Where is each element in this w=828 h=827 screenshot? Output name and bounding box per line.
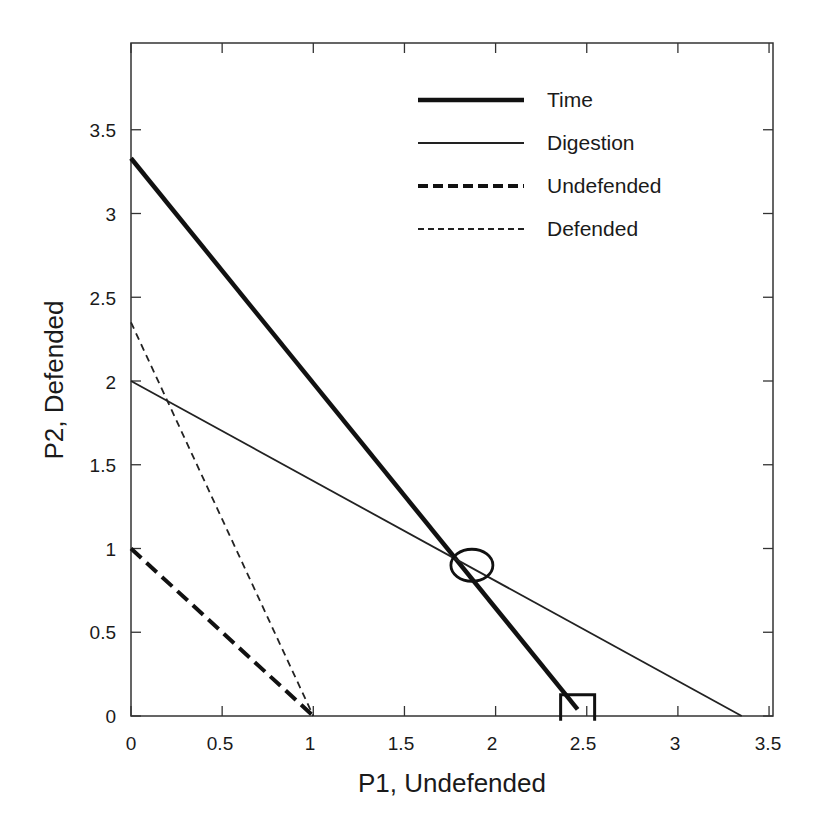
chart-canvas: 0 0.5 1 1.5 2 2.5 3 3.5 0 0.5 1 1.5 2 2.…	[0, 0, 828, 827]
x-tick-label: 3	[670, 733, 681, 754]
y-tick-label: 3.5	[90, 120, 116, 141]
x-tick-label: 2	[487, 733, 498, 754]
legend-label-defended: Defended	[547, 217, 638, 240]
y-tick-label: 0.5	[90, 622, 116, 643]
y-tick-label: 3	[105, 204, 116, 225]
x-axis-title: P1, Undefended	[358, 768, 546, 798]
x-tick-label: 1.5	[388, 733, 414, 754]
plot-frame	[131, 43, 773, 716]
series-defended-line	[131, 322, 313, 716]
legend-label-undefended: Undefended	[547, 174, 661, 197]
x-tick-label: 3.5	[755, 733, 781, 754]
legend-label-time: Time	[547, 88, 593, 111]
x-tick-label: 0.5	[207, 733, 233, 754]
y-tick-label: 1	[105, 539, 116, 560]
x-axis-ticks	[131, 43, 769, 716]
legend: Time Digestion Undefended Defended	[418, 88, 661, 240]
x-tick-label: 0	[126, 733, 137, 754]
legend-label-digestion: Digestion	[547, 131, 635, 154]
y-tick-label: 0	[105, 706, 116, 727]
y-axis-title: P2, Defended	[39, 300, 69, 459]
y-tick-label: 2	[105, 372, 116, 393]
y-axis-tick-labels: 0 0.5 1 1.5 2 2.5 3 3.5	[90, 120, 116, 727]
x-tick-label: 2.5	[570, 733, 596, 754]
x-axis-tick-labels: 0 0.5 1 1.5 2 2.5 3 3.5	[126, 733, 782, 754]
y-tick-label: 2.5	[90, 288, 116, 309]
series-digestion-line	[131, 381, 742, 716]
series-undefended-line	[131, 549, 313, 717]
series-time-line	[131, 158, 578, 709]
data-series	[131, 158, 742, 716]
y-tick-label: 1.5	[90, 455, 116, 476]
y-axis-ticks	[131, 130, 773, 716]
x-tick-label: 1	[305, 733, 316, 754]
